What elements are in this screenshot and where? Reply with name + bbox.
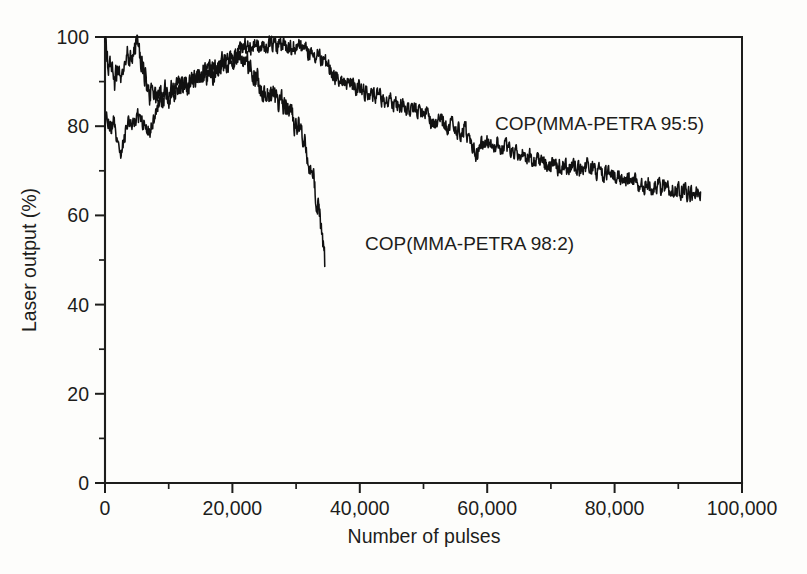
x-tick-label: 100,000 (707, 497, 778, 519)
x-tick-label: 20,000 (203, 497, 263, 519)
x-tick-label: 60,000 (457, 497, 517, 519)
y-tick-label: 20 (67, 383, 89, 405)
x-tick-label: 40,000 (330, 497, 390, 519)
data-curves (105, 35, 701, 266)
chart-canvas: 020406080100020,00040,00060,00080,000100… (0, 0, 807, 574)
y-tick-label: 0 (78, 472, 89, 494)
curve-cop-mma-petra-98-2- (105, 35, 325, 266)
y-tick-label: 100 (56, 26, 89, 48)
y-tick-label: 80 (67, 115, 89, 137)
plot-frame (105, 37, 742, 483)
x-tick-label: 80,000 (585, 497, 645, 519)
series-label-98-2: COP(MMA-PETRA 98:2) (365, 233, 574, 254)
x-axis-title: Number of pulses (348, 525, 501, 547)
figure-container: 020406080100020,00040,00060,00080,000100… (0, 0, 807, 574)
x-tick-label: 0 (100, 497, 111, 519)
y-tick-label: 40 (67, 294, 89, 316)
y-tick-label: 60 (67, 204, 89, 226)
series-label-95-5: COP(MMA-PETRA 95:5) (495, 113, 704, 134)
y-axis-title: Laser output (%) (18, 188, 40, 332)
